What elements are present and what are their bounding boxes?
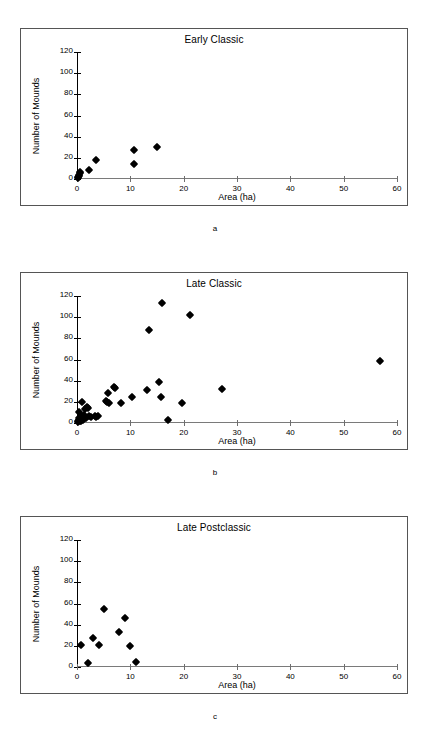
- panel-c: Late Postclassic Number of Mounds 020406…: [20, 516, 410, 694]
- x-tick-mark: [130, 176, 131, 182]
- data-point: [92, 156, 100, 164]
- y-tick-label: 40: [64, 131, 73, 141]
- y-tick-mark: [74, 381, 81, 382]
- y-tick-label: 20: [64, 640, 73, 650]
- y-tick-mark: [74, 540, 81, 541]
- plot-area-a: 0204060801001200102030405060: [77, 52, 397, 179]
- chart-title-a: Early Classic: [21, 34, 407, 45]
- x-tick-mark: [130, 420, 131, 426]
- x-tick-mark: [344, 176, 345, 182]
- x-axis-label-a: Area (ha): [77, 192, 397, 202]
- y-tick-label: 120: [60, 46, 73, 56]
- y-tick-label: 0: [69, 173, 73, 183]
- x-tick-mark: [397, 664, 398, 670]
- y-axis-label-text-a: Number of Mounds: [31, 77, 41, 154]
- data-point: [95, 641, 103, 649]
- chart-title-b: Late Classic: [21, 278, 407, 289]
- data-point: [129, 146, 137, 154]
- data-point: [128, 392, 136, 400]
- panel-caption-b: b: [20, 468, 410, 477]
- plot-area-b: 0204060801001200102030405060: [77, 296, 397, 423]
- chart-frame-c: Late Postclassic Number of Mounds 020406…: [20, 516, 408, 694]
- data-point: [84, 166, 92, 174]
- data-point: [89, 634, 97, 642]
- y-tick-label: 40: [64, 375, 73, 385]
- data-point: [158, 299, 166, 307]
- y-tick-mark: [74, 116, 81, 117]
- y-tick-mark: [74, 94, 81, 95]
- x-tick-mark: [77, 664, 78, 670]
- y-tick-mark: [74, 582, 81, 583]
- y-tick-mark: [74, 317, 81, 318]
- data-point: [116, 399, 124, 407]
- plot-area-c: 0204060801001200102030405060: [77, 540, 397, 667]
- y-tick-mark: [74, 338, 81, 339]
- data-point: [99, 605, 107, 613]
- panel-caption-a: a: [20, 224, 410, 233]
- y-tick-label: 100: [60, 555, 73, 565]
- x-tick-mark: [344, 664, 345, 670]
- data-point: [156, 392, 164, 400]
- chart-frame-a: Early Classic Number of Mounds 020406080…: [20, 28, 408, 206]
- figure-scatter-panels: Early Classic Number of Mounds 020406080…: [0, 0, 427, 732]
- y-tick-mark: [74, 296, 81, 297]
- data-point: [115, 628, 123, 636]
- x-axis-label-c: Area (ha): [77, 680, 397, 690]
- x-tick-mark: [290, 420, 291, 426]
- y-tick-mark: [74, 73, 81, 74]
- y-tick-label: 60: [64, 354, 73, 364]
- y-tick-label: 80: [64, 332, 73, 342]
- data-point: [177, 399, 185, 407]
- x-tick-mark: [130, 664, 131, 670]
- data-point: [155, 378, 163, 386]
- y-tick-label: 20: [64, 396, 73, 406]
- y-tick-label: 20: [64, 152, 73, 162]
- panel-a: Early Classic Number of Mounds 020406080…: [20, 28, 410, 206]
- y-tick-mark: [74, 604, 81, 605]
- y-tick-mark: [74, 52, 81, 53]
- x-tick-mark: [184, 420, 185, 426]
- data-point: [218, 384, 226, 392]
- y-tick-mark: [74, 137, 81, 138]
- x-tick-mark: [237, 420, 238, 426]
- y-axis-label-a: Number of Mounds: [30, 52, 42, 179]
- y-tick-mark: [74, 158, 81, 159]
- y-axis-label-text-b: Number of Mounds: [31, 321, 41, 398]
- data-point: [376, 357, 384, 365]
- data-point: [143, 386, 151, 394]
- y-tick-mark: [74, 561, 81, 562]
- x-tick-mark: [184, 664, 185, 670]
- data-point: [153, 142, 161, 150]
- y-tick-label: 100: [60, 311, 73, 321]
- x-tick-mark: [237, 664, 238, 670]
- x-tick-mark: [290, 176, 291, 182]
- y-tick-label: 0: [69, 661, 73, 671]
- data-point: [111, 384, 119, 392]
- y-tick-label: 60: [64, 598, 73, 608]
- y-tick-label: 80: [64, 88, 73, 98]
- y-tick-mark: [74, 360, 81, 361]
- x-tick-mark: [344, 420, 345, 426]
- panel-b: Late Classic Number of Mounds 0204060801…: [20, 272, 410, 450]
- data-point: [129, 159, 137, 167]
- data-point: [121, 614, 129, 622]
- data-point: [126, 642, 134, 650]
- data-point: [185, 310, 193, 318]
- y-tick-label: 80: [64, 576, 73, 586]
- x-tick-mark: [397, 176, 398, 182]
- y-tick-label: 40: [64, 619, 73, 629]
- y-tick-label: 60: [64, 110, 73, 120]
- data-point: [145, 326, 153, 334]
- x-tick-mark: [397, 420, 398, 426]
- y-axis-label-c: Number of Mounds: [30, 540, 42, 667]
- data-point: [77, 641, 85, 649]
- y-tick-mark: [74, 625, 81, 626]
- x-tick-mark: [237, 176, 238, 182]
- y-tick-label: 120: [60, 534, 73, 544]
- y-tick-label: 100: [60, 67, 73, 77]
- y-axis-label-b: Number of Mounds: [30, 296, 42, 423]
- chart-title-c: Late Postclassic: [21, 522, 407, 533]
- panel-caption-c: c: [20, 712, 410, 721]
- x-tick-mark: [184, 176, 185, 182]
- x-axis-label-b: Area (ha): [77, 436, 397, 446]
